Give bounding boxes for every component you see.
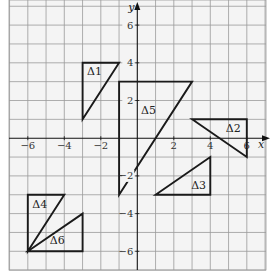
x-tick-label: 4 xyxy=(207,140,213,151)
triangle-3-label: Δ3 xyxy=(191,179,206,192)
y-tick-label: 2 xyxy=(127,95,133,106)
y-tick-label: −6 xyxy=(119,246,134,257)
triangle-4-label: Δ4 xyxy=(32,198,47,211)
x-tick-label: −2 xyxy=(93,140,108,151)
triangle-5-label: Δ5 xyxy=(141,104,156,117)
triangle-6-label: Δ6 xyxy=(50,234,65,247)
x-tick-label: 2 xyxy=(171,140,177,151)
y-tick-label: 6 xyxy=(127,20,133,31)
coordinate-grid-diagram: xy −6−4−2246642−2−4−6 Δ1Δ2Δ3Δ4Δ5Δ6−2 xyxy=(0,0,271,279)
y-tick-label: −4 xyxy=(119,208,134,219)
x-tick-label: −6 xyxy=(20,140,35,151)
triangle-1-label: Δ1 xyxy=(87,65,102,78)
y-tick-label: 4 xyxy=(127,57,133,68)
x-tick-label: −4 xyxy=(57,140,72,151)
x-axis-label: x xyxy=(258,138,265,151)
y-tick-label-minus-2: −2 xyxy=(119,170,134,181)
triangle-2-label: Δ2 xyxy=(226,122,241,135)
y-axis-label: y xyxy=(127,1,135,14)
